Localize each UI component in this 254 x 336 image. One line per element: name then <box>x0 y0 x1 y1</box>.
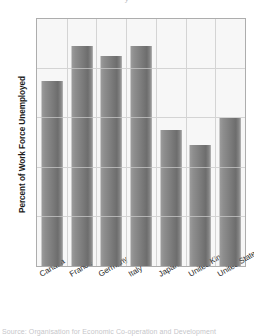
vertical-gridline <box>156 19 157 266</box>
vertical-gridline <box>215 19 216 266</box>
cropped-source-sliver: Source: Organisation for Economic Co-ope… <box>0 328 254 336</box>
horizontal-gridline <box>37 167 245 168</box>
chart-figure: y Percent of Work Force Unemployed 02468… <box>0 0 254 336</box>
vertical-gridline <box>126 19 127 266</box>
plot-area <box>36 18 246 267</box>
horizontal-gridline <box>37 68 245 69</box>
vertical-gridline <box>186 19 187 266</box>
vertical-gridline <box>96 19 97 266</box>
horizontal-gridline <box>37 216 245 217</box>
horizontal-gridline <box>37 117 245 118</box>
grid-lines <box>37 19 245 266</box>
vertical-gridline <box>67 19 68 266</box>
y-axis-title: Percent of Work Force Unemployed <box>18 65 27 225</box>
cropped-title-sliver: y <box>0 0 254 3</box>
